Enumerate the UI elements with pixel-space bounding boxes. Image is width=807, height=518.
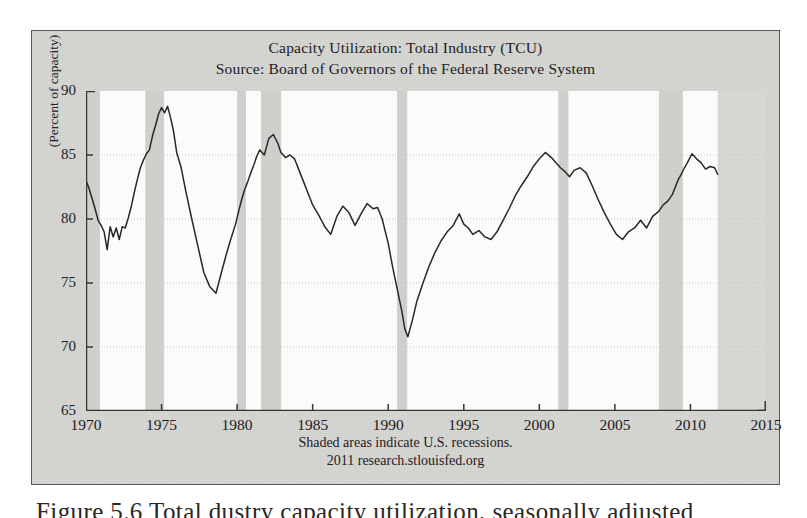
recession-band — [558, 91, 568, 411]
recession-band — [261, 91, 281, 411]
chart-footer-block: Shaded areas indicate U.S. recessions. 2… — [32, 434, 779, 470]
recession-band — [86, 91, 100, 411]
capacity-utilization-line-chart — [86, 91, 766, 411]
x-tick-label: 2005 — [585, 417, 645, 433]
y-tick-label: 90 — [32, 83, 76, 98]
y-tick-label: 70 — [32, 339, 76, 354]
x-tick-label: 2000 — [509, 417, 569, 433]
x-tick-label: 2015 — [736, 417, 796, 433]
x-tick-label: 1970 — [56, 417, 116, 433]
y-tick-label: 80 — [32, 211, 76, 226]
recession-band — [237, 91, 246, 411]
x-tick-label: 2010 — [660, 417, 720, 433]
no-data-shading — [718, 91, 766, 411]
recession-band — [659, 91, 683, 411]
chart-title-block: Capacity Utilization: Total Industry (TC… — [32, 37, 779, 79]
figure-page: Capacity Utilization: Total Industry (TC… — [0, 0, 807, 518]
x-tick-label: 1990 — [358, 417, 418, 433]
y-tick-label: 65 — [32, 403, 76, 418]
chart-subtitle: Source: Board of Governors of the Federa… — [32, 58, 779, 79]
x-tick-label: 1980 — [207, 417, 267, 433]
recession-band — [397, 91, 407, 411]
x-tick-label: 1995 — [434, 417, 494, 433]
x-tick-label: 1975 — [132, 417, 192, 433]
x-tick-label: 1985 — [283, 417, 343, 433]
recession-band — [145, 91, 164, 411]
book-figure-caption: Figure 5.6 Total dustry capacity utiliza… — [36, 497, 776, 518]
plot-wrapper — [86, 91, 766, 411]
source-note: 2011 research.stlouisfed.org — [32, 452, 779, 470]
fred-chart-figure: Capacity Utilization: Total Industry (TC… — [31, 30, 780, 485]
chart-title: Capacity Utilization: Total Industry (TC… — [32, 37, 779, 58]
y-tick-label: 85 — [32, 147, 76, 162]
recession-note: Shaded areas indicate U.S. recessions. — [32, 434, 779, 452]
y-tick-label: 75 — [32, 275, 76, 290]
